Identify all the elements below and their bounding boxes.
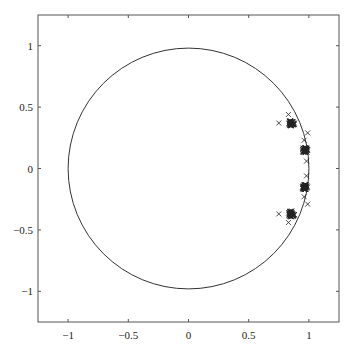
chart-plot: −1−0.500.5110.50−0.5−1: [0, 0, 356, 350]
x-tick-label: −0.5: [118, 329, 138, 341]
x-marker: [286, 220, 291, 225]
unit-circle-curve: [68, 48, 309, 289]
axes-frame: [38, 15, 339, 322]
y-tick-label: −0.5: [13, 224, 33, 236]
x-tick-label: 0.5: [242, 329, 256, 341]
x-tick-label: 0: [186, 329, 192, 341]
axis-ticks: [38, 15, 339, 322]
y-tick-label: 1: [28, 40, 34, 52]
y-tick-label: −1: [21, 285, 33, 297]
x-tick-label: 1: [306, 329, 312, 341]
data-markers: [276, 112, 310, 225]
x-marker: [286, 112, 291, 117]
x-tick-label: −1: [62, 329, 74, 341]
x-marker: [276, 121, 281, 126]
y-tick-label: 0.5: [19, 101, 33, 113]
x-marker: [305, 202, 310, 207]
axis-tick-labels: −1−0.500.5110.50−0.5−1: [13, 40, 312, 341]
y-tick-label: 0: [28, 163, 34, 175]
x-marker: [276, 211, 281, 216]
x-marker: [305, 130, 310, 135]
